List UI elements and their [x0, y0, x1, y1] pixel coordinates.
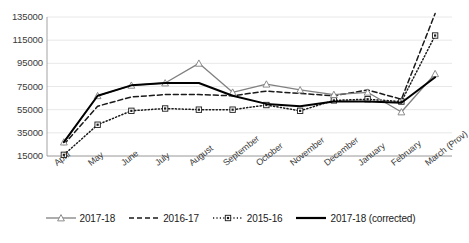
y-axis-tick-label: 15000 [0, 150, 43, 161]
legend-item-label: 2017-18 (corrected) [330, 213, 415, 224]
legend-key-icon [128, 212, 160, 224]
series-2016-17 [64, 14, 435, 145]
series-layer [60, 14, 438, 158]
legend-item[interactable]: 2017-18 (corrected) [295, 212, 415, 224]
legend-item-label: 2017-18 [80, 213, 116, 224]
legend-item[interactable]: 2017-18 [45, 212, 116, 224]
legend-key-icon [45, 212, 77, 224]
gridlines [47, 17, 452, 156]
legend-item[interactable]: 2016-17 [128, 212, 199, 224]
y-axis-tick-label: 115000 [0, 34, 43, 45]
legend-item-label: 2015-16 [247, 213, 283, 224]
y-axis-tick-label: 95000 [0, 57, 43, 68]
y-axis-tick-label: 55000 [0, 104, 43, 115]
y-axis-tick-label: 75000 [0, 81, 43, 92]
chart-legend: 2017-182016-172015-162017-18 (corrected) [0, 210, 460, 226]
legend-key-icon [212, 212, 244, 224]
legend-key-icon [295, 212, 327, 224]
legend-item[interactable]: 2015-16 [212, 212, 283, 224]
y-axis-tick-label: 135000 [0, 11, 43, 22]
y-axis-tick-label: 35000 [0, 127, 43, 138]
legend-item-label: 2016-17 [163, 213, 199, 224]
